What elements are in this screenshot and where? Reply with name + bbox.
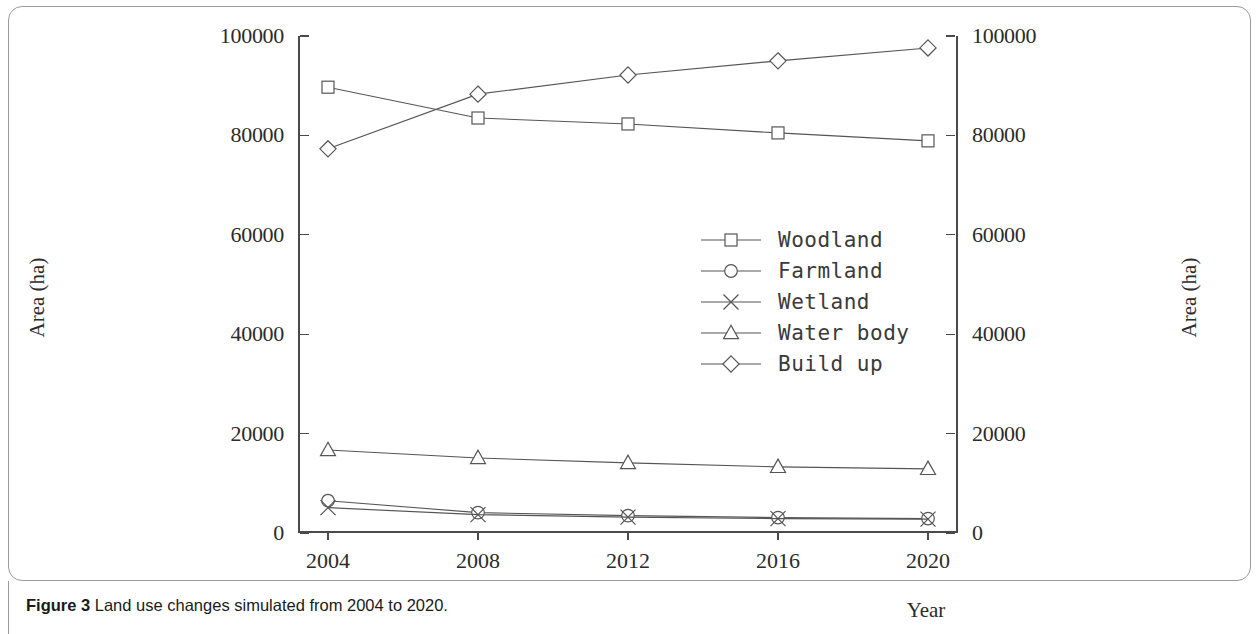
y-tick-label-left: 80000 — [230, 122, 284, 148]
legend-marker-square-icon — [700, 229, 762, 251]
data-point-diamond — [723, 355, 739, 371]
legend-item-farmland[interactable]: Farmland — [700, 255, 909, 286]
y-tick-label-left: 0 — [273, 520, 284, 546]
legend-item-build-up[interactable]: Build up — [700, 348, 909, 379]
series-build-up — [320, 40, 936, 157]
x-tick-label: 2020 — [906, 548, 950, 574]
series-line — [328, 87, 928, 141]
data-point-triangle — [621, 455, 636, 468]
series-farmland — [322, 494, 935, 524]
data-point-triangle — [321, 442, 336, 455]
data-point-square — [922, 135, 934, 147]
legend-label: Water body — [778, 321, 909, 345]
y-tick-label-left: 40000 — [230, 321, 284, 347]
legend-item-wetland[interactable]: Wetland — [700, 286, 909, 317]
data-point-square — [772, 127, 784, 139]
data-point-square — [622, 118, 634, 130]
data-point-diamond — [920, 40, 936, 56]
y-tick-label-right: 0 — [972, 520, 983, 546]
data-point-diamond — [470, 86, 486, 102]
legend-label: Farmland — [778, 259, 883, 283]
data-point-circle — [725, 264, 738, 277]
figure-caption-text: Land use changes simulated from 2004 to … — [90, 596, 448, 614]
y-tick-label-left: 20000 — [230, 421, 284, 447]
series-woodland — [322, 81, 934, 147]
figure-caption: Figure 3 Land use changes simulated from… — [26, 596, 448, 615]
y-tick-label-right: 60000 — [972, 222, 1026, 248]
series-water-body — [321, 442, 936, 474]
x-tick-label: 2012 — [606, 548, 650, 574]
data-point-circle — [322, 494, 335, 507]
legend-label: Woodland — [778, 228, 883, 252]
y-tick-label-right: 40000 — [972, 321, 1026, 347]
legend-marker-circle-icon — [700, 260, 762, 282]
legend-label: Build up — [778, 352, 883, 376]
x-tick-label: 2008 — [456, 548, 500, 574]
data-point-triangle — [471, 450, 486, 463]
y-tick-label-right: 100000 — [972, 23, 1036, 49]
figure-container: Area (ha) Area (ha) 02000040000600008000… — [0, 0, 1259, 634]
data-point-square — [472, 112, 484, 124]
data-point-triangle — [921, 461, 936, 474]
y-tick-label-left: 60000 — [230, 222, 284, 248]
y-axis-title-left: Area (ha) — [25, 258, 50, 338]
x-tick-label: 2016 — [756, 548, 800, 574]
data-point-triangle — [724, 325, 739, 338]
data-point-square — [322, 81, 334, 93]
y-axis-title-right: Area (ha) — [1177, 258, 1202, 338]
data-point-circle — [472, 506, 485, 519]
legend-item-water-body[interactable]: Water body — [700, 317, 909, 348]
y-tick-label-right: 20000 — [972, 421, 1026, 447]
series-line — [328, 48, 928, 149]
legend-label: Wetland — [778, 290, 870, 314]
legend-marker-triangle-icon — [700, 322, 762, 344]
data-point-square — [725, 234, 737, 246]
figure-caption-number: Figure 3 — [26, 596, 90, 614]
legend-marker-diamond-icon — [700, 353, 762, 375]
data-point-circle — [772, 511, 785, 524]
data-point-diamond — [320, 141, 336, 157]
data-point-diamond — [620, 67, 636, 83]
legend-marker-cross-icon — [700, 291, 762, 313]
x-axis-title: Year — [907, 598, 946, 623]
data-point-circle — [622, 509, 635, 522]
y-tick-label-left: 100000 — [220, 23, 284, 49]
data-point-triangle — [771, 459, 786, 472]
data-point-diamond — [770, 53, 786, 69]
chart-legend: WoodlandFarmlandWetlandWater bodyBuild u… — [700, 224, 909, 379]
legend-item-woodland[interactable]: Woodland — [700, 224, 909, 255]
y-tick-label-right: 80000 — [972, 122, 1026, 148]
x-tick-label: 2004 — [306, 548, 350, 574]
caption-left-rule — [8, 581, 9, 634]
